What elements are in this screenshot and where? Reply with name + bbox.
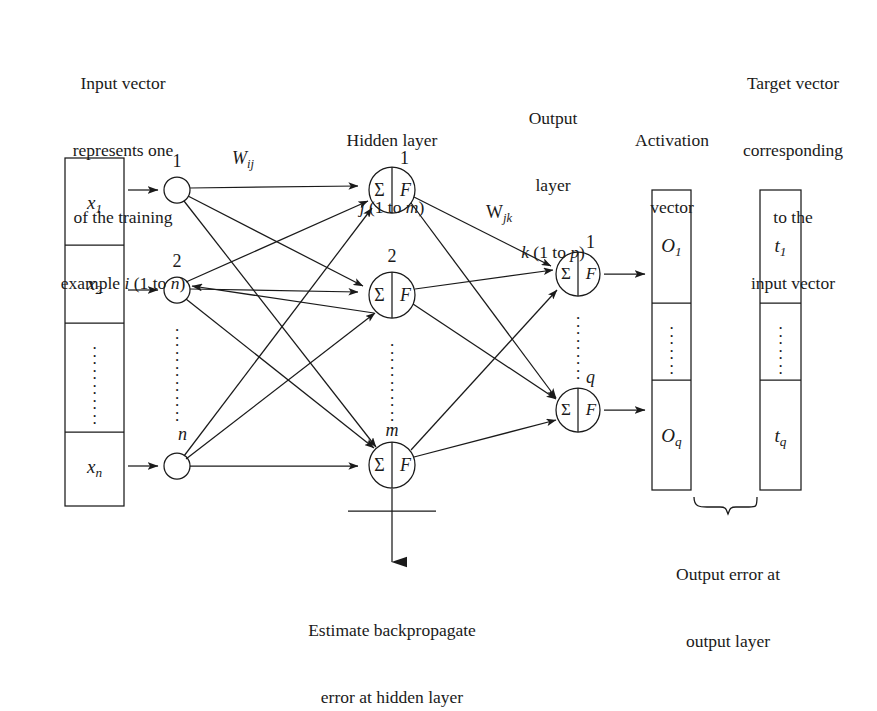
output-node-label-1: 1 — [586, 231, 616, 254]
output-node-label-q: q — [586, 366, 616, 389]
hidden-node-ellipsis: ............ — [372, 337, 412, 427]
target-caption: Target vector corresponding to the input… — [713, 28, 873, 339]
hidden-node-m-sum: Σ — [369, 454, 390, 477]
hidden-caption-line2: j (1 to m) — [312, 196, 472, 218]
output-node-q-sum: Σ — [556, 399, 576, 421]
hidden-node-label-1: 1 — [400, 147, 430, 170]
hidden-node-m-act: F — [395, 454, 416, 477]
activation-cell-ellipsis: ....... — [652, 320, 691, 373]
activation-cell-o1: O1 — [652, 234, 691, 261]
activation-cell-oq: Oq — [652, 424, 691, 451]
target-cell-t1: t1 — [760, 234, 801, 261]
hidden-caption: Hidden layer j (1 to m) — [312, 85, 472, 263]
output-error-annotation: Output error at output layer — [628, 519, 828, 697]
hidden-node-1-sum: Σ — [369, 179, 390, 202]
backprop-annotation: Estimate backpropagate error at hidden l… — [232, 575, 552, 711]
input-cell-ellipsis: ........... — [65, 340, 124, 423]
hidden-backprop-arrow — [348, 489, 436, 562]
hidden-node-1-act: F — [395, 179, 416, 202]
input-node-label-n: n — [178, 423, 208, 446]
input-cell-x2: x2 — [65, 272, 124, 299]
input-node-label-1: 1 — [157, 150, 197, 173]
output-node-q-act: F — [581, 399, 601, 421]
output-error-brace — [694, 497, 757, 514]
hidden-node-2-sum: Σ — [369, 284, 390, 307]
output-node-1-sum: Σ — [556, 263, 576, 285]
hidden-node-label-2: 2 — [372, 245, 412, 268]
weight-label-wij: Wij — [232, 147, 292, 173]
input-node-ellipsis: ............. — [157, 322, 197, 420]
hidden-node-label-m: m — [372, 419, 412, 442]
hidden-node-2-act: F — [395, 284, 416, 307]
input-node-label-2: 2 — [157, 250, 197, 273]
weight-label-wjk: Wjk — [486, 201, 546, 227]
input-cell-xn: xn — [65, 455, 124, 482]
target-cell-tq: tq — [760, 424, 801, 451]
input-cell-x1: x1 — [65, 191, 124, 218]
output-node-1-act: F — [581, 263, 601, 285]
output-to-activation-arrows — [604, 274, 645, 410]
target-cell-ellipsis: ....... — [760, 320, 801, 373]
